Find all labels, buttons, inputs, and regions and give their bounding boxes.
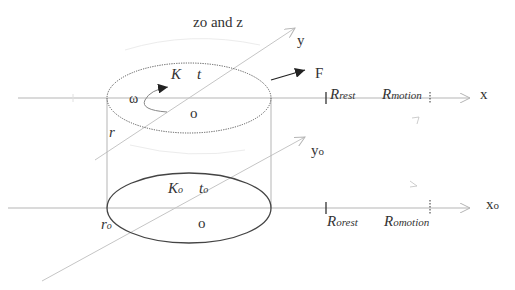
y-axis-upper: [95, 28, 295, 160]
force-label: F: [315, 65, 323, 81]
origin-label: o: [190, 105, 198, 121]
y-axis-lower: [42, 137, 305, 281]
t-label: t: [197, 66, 202, 82]
ko-label: Ko: [167, 180, 183, 196]
to-label: to: [199, 180, 208, 196]
r-omotion-label: Romotion: [383, 213, 430, 229]
small-arrow-icon: [412, 117, 419, 124]
z-axis-label: zo and z: [193, 14, 243, 30]
k-label: K: [170, 66, 182, 82]
y-axis-label: y: [297, 32, 305, 48]
origin-o-label: o: [198, 215, 206, 231]
r-motion-label: Rmotion: [381, 86, 422, 102]
cylinder-frames-diagram: zo and z y F x ω K t o r Rrest Rmotion y…: [0, 0, 515, 290]
force-arrow-icon: [271, 70, 305, 80]
x-axis-label: x: [480, 86, 488, 102]
ghost-arc: [125, 39, 260, 50]
omega-label: ω: [129, 91, 138, 106]
r-orest-label: Rorest: [326, 213, 359, 229]
yo-axis-label: yo: [311, 142, 325, 158]
xo-axis-label: xo: [486, 196, 500, 212]
small-arrow-icon-lower: [410, 181, 417, 187]
ghost-arc-lower: [130, 145, 245, 154]
omega-rotation-icon: [144, 87, 168, 112]
radius-label: r: [109, 124, 115, 140]
r-rest-label: Rrest: [329, 86, 356, 102]
